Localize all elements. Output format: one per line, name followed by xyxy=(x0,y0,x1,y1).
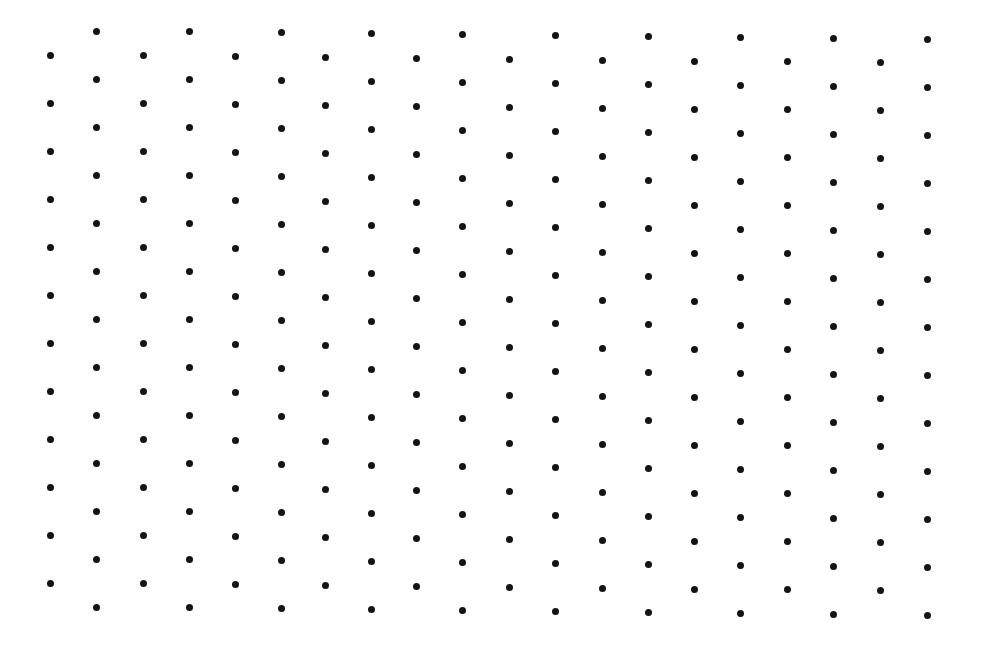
grid-dot xyxy=(877,539,884,546)
grid-dot xyxy=(877,251,884,258)
grid-dot xyxy=(691,106,698,113)
grid-dot xyxy=(830,275,837,282)
grid-dot xyxy=(368,126,375,133)
grid-dot xyxy=(924,84,931,91)
grid-dot xyxy=(552,320,559,327)
grid-dot xyxy=(599,297,606,304)
grid-dot xyxy=(552,416,559,423)
grid-dot xyxy=(691,346,698,353)
grid-dot xyxy=(737,130,744,137)
grid-dot xyxy=(737,466,744,473)
grid-dot xyxy=(737,514,744,521)
grid-dot xyxy=(506,56,513,63)
grid-dot xyxy=(186,76,193,83)
grid-dot xyxy=(645,321,652,328)
grid-dot xyxy=(278,605,285,612)
grid-dot xyxy=(877,491,884,498)
grid-dot xyxy=(368,510,375,517)
grid-dot xyxy=(186,364,193,371)
grid-dot xyxy=(232,437,239,444)
grid-dot xyxy=(459,31,466,38)
grid-dot xyxy=(552,560,559,567)
grid-dot xyxy=(413,55,420,62)
grid-dot xyxy=(737,82,744,89)
grid-dot xyxy=(278,557,285,564)
grid-dot xyxy=(232,149,239,156)
grid-dot xyxy=(552,272,559,279)
grid-dot xyxy=(459,511,466,518)
grid-dot xyxy=(830,611,837,618)
grid-dot xyxy=(599,537,606,544)
grid-dot xyxy=(232,101,239,108)
grid-dot xyxy=(599,393,606,400)
grid-dot xyxy=(93,316,100,323)
grid-dot xyxy=(877,443,884,450)
grid-dot xyxy=(830,467,837,474)
grid-dot xyxy=(278,269,285,276)
grid-dot xyxy=(506,152,513,159)
grid-dot xyxy=(278,461,285,468)
grid-dot xyxy=(645,273,652,280)
grid-dot xyxy=(830,131,837,138)
grid-dot xyxy=(186,124,193,131)
grid-dot xyxy=(47,292,54,299)
grid-dot xyxy=(691,202,698,209)
grid-dot xyxy=(278,365,285,372)
grid-dot xyxy=(924,516,931,523)
grid-dot xyxy=(599,57,606,64)
grid-dot xyxy=(93,508,100,515)
grid-dot xyxy=(47,148,54,155)
grid-dot xyxy=(877,395,884,402)
grid-dot xyxy=(278,509,285,516)
grid-dot xyxy=(322,150,329,157)
grid-dot xyxy=(737,34,744,41)
grid-dot xyxy=(645,609,652,616)
grid-dot xyxy=(599,489,606,496)
grid-dot xyxy=(140,244,147,251)
grid-dot xyxy=(506,200,513,207)
grid-dot xyxy=(140,148,147,155)
grid-dot xyxy=(830,419,837,426)
grid-dot xyxy=(830,563,837,570)
grid-dot xyxy=(368,222,375,229)
grid-dot xyxy=(552,512,559,519)
grid-dot xyxy=(552,176,559,183)
grid-dot xyxy=(552,608,559,615)
grid-dot xyxy=(599,585,606,592)
grid-dot xyxy=(737,178,744,185)
grid-dot xyxy=(140,292,147,299)
grid-dot xyxy=(784,442,791,449)
grid-dot xyxy=(47,532,54,539)
grid-dot xyxy=(140,436,147,443)
grid-dot xyxy=(413,487,420,494)
grid-dot xyxy=(413,583,420,590)
grid-dot xyxy=(784,202,791,209)
grid-dot xyxy=(322,294,329,301)
grid-dot xyxy=(413,343,420,350)
grid-dot xyxy=(93,604,100,611)
grid-dot xyxy=(877,299,884,306)
grid-dot xyxy=(232,389,239,396)
grid-dot xyxy=(459,559,466,566)
grid-dot xyxy=(232,485,239,492)
grid-dot xyxy=(877,203,884,210)
grid-dot xyxy=(830,227,837,234)
grid-dot xyxy=(599,345,606,352)
grid-dot xyxy=(691,490,698,497)
dot-grid-canvas xyxy=(0,0,981,649)
grid-dot xyxy=(368,366,375,373)
grid-dot xyxy=(322,246,329,253)
grid-dot xyxy=(645,417,652,424)
grid-dot xyxy=(47,436,54,443)
grid-dot xyxy=(737,370,744,377)
grid-dot xyxy=(413,199,420,206)
grid-dot xyxy=(186,28,193,35)
grid-dot xyxy=(322,198,329,205)
grid-dot xyxy=(93,412,100,419)
grid-dot xyxy=(506,392,513,399)
grid-dot xyxy=(645,513,652,520)
grid-dot xyxy=(599,441,606,448)
grid-dot xyxy=(186,508,193,515)
grid-dot xyxy=(552,464,559,471)
grid-dot xyxy=(645,369,652,376)
